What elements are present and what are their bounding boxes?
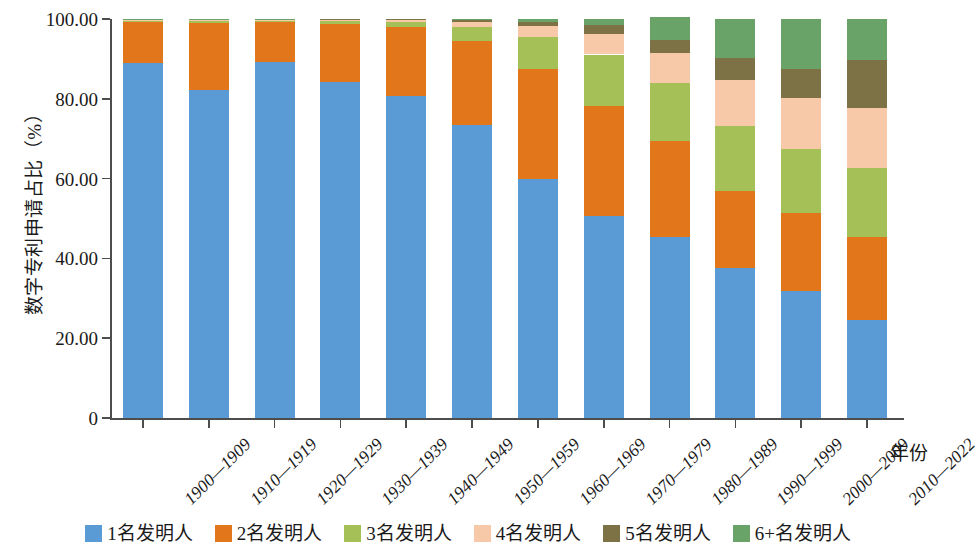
bar-segment[interactable] bbox=[518, 179, 558, 418]
bar-segment[interactable] bbox=[123, 63, 163, 418]
bar-segment[interactable] bbox=[715, 19, 755, 58]
bar-segment[interactable] bbox=[189, 23, 229, 90]
bar-segment[interactable] bbox=[847, 237, 887, 320]
bar-segment[interactable] bbox=[518, 26, 558, 38]
bar-segment[interactable] bbox=[781, 213, 821, 291]
bar-segment[interactable] bbox=[320, 19, 360, 20]
legend-item[interactable]: 4名发明人 bbox=[474, 524, 582, 543]
x-axis-tick-label: 1940—1949 bbox=[443, 434, 518, 509]
bar-segment[interactable] bbox=[715, 80, 755, 126]
bar-column[interactable] bbox=[847, 19, 887, 418]
bar-segment[interactable] bbox=[518, 37, 558, 69]
bar-segment[interactable] bbox=[584, 25, 624, 33]
bar-column[interactable] bbox=[715, 19, 755, 418]
bar-segment[interactable] bbox=[320, 82, 360, 418]
bar-column[interactable] bbox=[189, 19, 229, 418]
x-axis-tick-mark bbox=[800, 420, 802, 428]
bar-segment[interactable] bbox=[847, 19, 887, 60]
bar-segment[interactable] bbox=[781, 19, 821, 69]
bar-column[interactable] bbox=[584, 19, 624, 418]
legend-swatch-icon bbox=[215, 525, 232, 542]
bar-segment[interactable] bbox=[781, 291, 821, 418]
legend-item[interactable]: 1名发明人 bbox=[85, 524, 193, 543]
bar-segment[interactable] bbox=[452, 125, 492, 418]
bar-segment[interactable] bbox=[452, 19, 492, 20]
bar-segment[interactable] bbox=[847, 168, 887, 237]
bar-segment[interactable] bbox=[189, 90, 229, 418]
legend-swatch-icon bbox=[733, 525, 750, 542]
x-axis-tick-mark bbox=[340, 420, 342, 428]
bar-column[interactable] bbox=[650, 19, 690, 418]
bar-segment[interactable] bbox=[386, 96, 426, 418]
bar-segment[interactable] bbox=[452, 27, 492, 41]
bar-column[interactable] bbox=[320, 19, 360, 418]
legend-item[interactable]: 6+名发明人 bbox=[733, 524, 851, 543]
x-axis-tick-mark bbox=[471, 420, 473, 428]
bar-segment[interactable] bbox=[650, 53, 690, 83]
bar-segment[interactable] bbox=[650, 237, 690, 418]
bar-segment[interactable] bbox=[518, 22, 558, 26]
bar-segment[interactable] bbox=[715, 126, 755, 191]
x-axis-tick-mark bbox=[142, 420, 144, 428]
bar-segment[interactable] bbox=[584, 216, 624, 418]
x-axis-tick-label: 1910—1919 bbox=[246, 434, 321, 509]
legend-label: 6+名发明人 bbox=[755, 524, 851, 543]
bar-segment[interactable] bbox=[255, 19, 295, 20]
bar-segment[interactable] bbox=[715, 191, 755, 268]
bar-segment[interactable] bbox=[189, 20, 229, 23]
bar-segment[interactable] bbox=[584, 19, 624, 25]
legend-label: 2名发明人 bbox=[237, 524, 323, 543]
x-axis-tick-label: 1920—1929 bbox=[312, 434, 387, 509]
bar-column[interactable] bbox=[386, 19, 426, 418]
legend-swatch-icon bbox=[474, 525, 491, 542]
bar-segment[interactable] bbox=[255, 22, 295, 62]
bar-segment[interactable] bbox=[847, 60, 887, 108]
bar-segment[interactable] bbox=[189, 19, 229, 20]
bar-segment[interactable] bbox=[386, 27, 426, 96]
legend-item[interactable]: 3名发明人 bbox=[344, 524, 452, 543]
legend-label: 3名发明人 bbox=[366, 524, 452, 543]
bar-segment[interactable] bbox=[650, 40, 690, 54]
bar-segment[interactable] bbox=[584, 34, 624, 55]
bar-segment[interactable] bbox=[781, 98, 821, 149]
bar-segment[interactable] bbox=[386, 22, 426, 27]
legend-item[interactable]: 5名发明人 bbox=[603, 524, 711, 543]
bar-segment[interactable] bbox=[320, 21, 360, 24]
bar-segment[interactable] bbox=[781, 69, 821, 98]
bar-segment[interactable] bbox=[255, 62, 295, 418]
bar-segment[interactable] bbox=[650, 141, 690, 237]
bar-segment[interactable] bbox=[320, 24, 360, 82]
bar-segment[interactable] bbox=[386, 19, 426, 20]
legend-swatch-icon bbox=[85, 525, 102, 542]
bar-segment[interactable] bbox=[452, 41, 492, 125]
bar-column[interactable] bbox=[452, 19, 492, 418]
bar-segment[interactable] bbox=[123, 22, 163, 63]
bar-column[interactable] bbox=[781, 19, 821, 418]
bar-segment[interactable] bbox=[650, 83, 690, 141]
bar-segment[interactable] bbox=[518, 19, 558, 22]
x-axis-tick-mark bbox=[274, 420, 276, 428]
x-axis-tick-mark bbox=[866, 420, 868, 428]
x-axis-tick-label: 1970—1979 bbox=[641, 434, 716, 509]
bar-column[interactable] bbox=[518, 19, 558, 418]
chart-legend: 1名发明人2名发明人3名发明人4名发明人5名发明人6+名发明人 bbox=[0, 524, 936, 543]
bar-segment[interactable] bbox=[781, 149, 821, 213]
bar-segment[interactable] bbox=[847, 108, 887, 168]
bar-segment[interactable] bbox=[847, 320, 887, 418]
x-axis-tick-mark bbox=[537, 420, 539, 428]
bar-segment[interactable] bbox=[123, 19, 163, 20]
bar-segment[interactable] bbox=[650, 17, 690, 39]
legend-item[interactable]: 2名发明人 bbox=[215, 524, 323, 543]
bar-segment[interactable] bbox=[518, 69, 558, 178]
bar-segment[interactable] bbox=[584, 106, 624, 217]
bar-segment[interactable] bbox=[584, 55, 624, 106]
bar-segment[interactable] bbox=[452, 22, 492, 27]
bar-column[interactable] bbox=[255, 19, 295, 418]
bar-column[interactable] bbox=[123, 19, 163, 418]
x-axis-tick-label: 1930—1939 bbox=[377, 434, 452, 509]
bar-segment[interactable] bbox=[715, 58, 755, 80]
bar-segment[interactable] bbox=[715, 268, 755, 418]
x-axis-tick-label: 1950—1959 bbox=[509, 434, 584, 509]
x-axis-tick-mark bbox=[669, 420, 671, 428]
